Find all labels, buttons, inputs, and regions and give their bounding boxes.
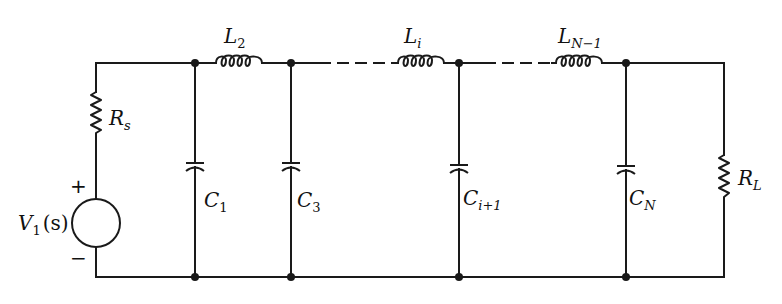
source-branch [72, 63, 195, 277]
label-v1s: V1(s) [18, 211, 69, 238]
node-dot-icon [455, 273, 463, 281]
label-cn: CN [629, 186, 656, 213]
resistor-rs-icon [91, 92, 101, 136]
label-l2: L2 [223, 24, 246, 51]
label-rs: Rs [108, 106, 131, 133]
label-li: Li [403, 24, 421, 51]
wire-top-left [96, 63, 195, 92]
capacitor-c3 [282, 63, 300, 277]
capacitor-c1 [186, 63, 204, 277]
label-ci1: Ci+1 [463, 186, 502, 213]
inductor-li-icon [398, 56, 444, 67]
label-ln1: LN−1 [557, 24, 602, 51]
plus-sign: + [70, 174, 87, 198]
node-dot-icon [622, 59, 630, 67]
label-c1: C1 [204, 188, 228, 215]
label-rl: RL [737, 166, 762, 193]
circuit-svg: Rs + − V1(s) L2 Li LN−1 RL [0, 0, 782, 304]
node-dot-icon [287, 273, 295, 281]
capacitor-cn [617, 63, 635, 277]
resistor-rl-icon [719, 155, 729, 200]
wire-top-right [626, 63, 724, 155]
wire-bottom-left [96, 247, 195, 277]
node-dot-icon [191, 59, 199, 67]
node-dot-icon [622, 273, 630, 281]
circuit-diagram: Rs + − V1(s) L2 Li LN−1 RL [0, 0, 782, 304]
node-dot-icon [287, 59, 295, 67]
label-c3: C3 [297, 188, 321, 215]
node-dot-icon [455, 59, 463, 67]
junction-nodes [191, 59, 630, 281]
minus-sign: − [70, 246, 87, 270]
node-dot-icon [191, 273, 199, 281]
inductor-ln1-icon [556, 56, 602, 67]
capacitor-ci1 [450, 63, 468, 277]
inductor-l2-icon [216, 56, 262, 67]
voltage-source-icon [72, 199, 120, 247]
